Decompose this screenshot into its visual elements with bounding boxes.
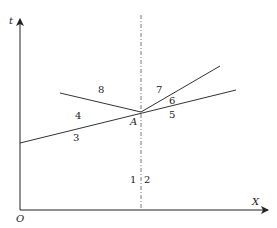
region-label-7: 7: [156, 84, 162, 95]
region-label-3: 3: [73, 132, 79, 143]
region-label-2: 2: [144, 174, 150, 185]
origin-label: O: [16, 213, 24, 224]
region-label-6: 6: [169, 95, 175, 106]
point-a-label: A: [129, 116, 137, 127]
region-label-8: 8: [98, 84, 104, 95]
region-label-4: 4: [75, 110, 81, 121]
t-axis-label: t: [9, 15, 14, 26]
x-axis-label: X: [251, 196, 260, 207]
diagram-canvas: t X O A 1 2 3 4 5 6 7 8: [0, 0, 277, 228]
region-label-1: 1: [130, 174, 136, 185]
line-8: [60, 93, 141, 112]
line-7: [141, 66, 220, 112]
region-label-5: 5: [169, 109, 175, 120]
line-3-5: [20, 90, 236, 143]
